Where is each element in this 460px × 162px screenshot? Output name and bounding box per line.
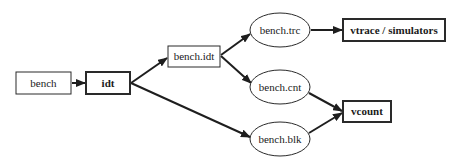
node-bench-idt: bench.idt [168,46,220,67]
node-label: bench.blk [258,133,302,145]
node-vtrace: vtrace / simulators [343,19,445,41]
node-bench-blk: bench.blk [250,122,310,156]
node-bench: bench [16,72,71,94]
edge-bench-idt-to-bench-trc [221,34,250,55]
node-label: idt [102,77,115,89]
flow-diagram: bench idt bench.idt bench.trc bench.cnt … [0,0,460,162]
edge-bench-idt-to-bench-cnt [221,56,251,83]
node-label: bench [30,77,57,89]
node-label: bench.cnt [259,81,301,93]
node-bench-cnt: bench.cnt [250,70,310,104]
node-label: vcount [351,105,383,117]
edge-idt-to-bench-idt [131,58,167,83]
node-label: vtrace / simulators [350,24,438,36]
node-label: bench.trc [260,24,301,36]
edge-bench-cnt-to-vcount [309,93,342,111]
edge-bench-blk-to-vcount [309,113,342,133]
node-vcount: vcount [343,101,391,122]
node-idt: idt [86,72,130,94]
edge-idt-to-bench-blk [131,83,250,137]
node-label: bench.idt [174,50,215,62]
node-bench-trc: bench.trc [250,13,310,47]
